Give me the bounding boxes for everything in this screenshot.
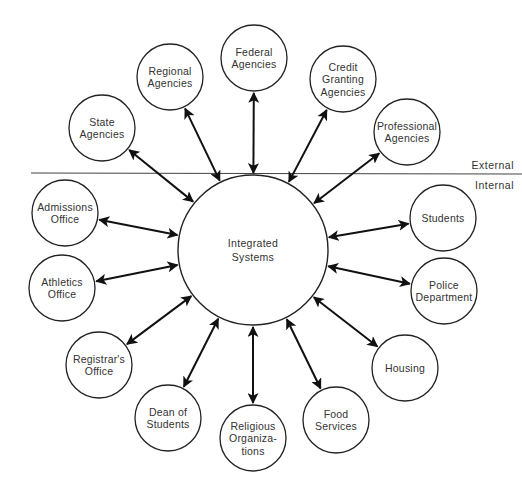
police-department-node: PoliceDepartment: [411, 258, 477, 324]
label-line: Religious: [231, 420, 276, 432]
professional-agencies-label: ProfessionalAgencies: [377, 120, 437, 145]
arrow-registrars-office: [127, 296, 191, 344]
label-line: Services: [315, 420, 357, 432]
religious-organizations-node: ReligiousOrganiza-tions: [220, 405, 286, 471]
students-node: Students: [410, 185, 476, 251]
external-label: External: [471, 159, 514, 171]
integrated-systems-node: IntegratedSystems: [178, 175, 328, 325]
integrated-systems-circle: [178, 175, 328, 325]
label-line: Students: [421, 212, 464, 224]
label-line: Federal: [235, 46, 272, 58]
label-line: tions: [241, 445, 264, 457]
label-line: Agencies: [232, 58, 277, 70]
arrow-credit-granting-agencies: [289, 110, 327, 182]
arrow-housing: [314, 297, 378, 346]
external-internal-divider: [31, 173, 522, 174]
label-line: Athletics: [41, 276, 82, 288]
students-label: Students: [421, 212, 464, 224]
arrow-professional-agencies: [314, 153, 379, 203]
registrars-office-node: Registrar'sOffice: [66, 332, 132, 398]
label-line: Department: [416, 291, 473, 303]
arrow-dean-of-students: [184, 319, 218, 387]
label-line: Regional: [148, 65, 191, 77]
arrow-students: [329, 224, 409, 237]
label-line: Granting: [322, 73, 364, 85]
regional-agencies-label: RegionalAgencies: [148, 65, 193, 90]
food-services-node: FoodServices: [303, 387, 369, 453]
label-line: State: [89, 116, 115, 128]
dean-of-students-node: Dean ofStudents: [135, 385, 201, 451]
label-line: Food: [324, 408, 349, 420]
label-line: Agencies: [385, 132, 430, 144]
label-line: Office: [51, 213, 79, 225]
label-line: Students: [146, 418, 189, 430]
arrow-regional-agencies: [185, 109, 220, 181]
label-line: Organiza-: [229, 432, 277, 444]
housing-label: Housing: [385, 362, 425, 374]
admissions-office-node: AdmissionsOffice: [32, 180, 98, 246]
label-line: Systems: [232, 251, 274, 263]
state-agencies-node: StateAgencies: [69, 95, 135, 161]
integrated-systems-diagram: External Internal IntegratedSystems Stat…: [0, 0, 522, 490]
label-line: Office: [85, 365, 113, 377]
label-line: Admissions: [37, 201, 93, 213]
label-line: Credit: [328, 61, 357, 73]
label-line: Housing: [385, 362, 425, 374]
label-line: Registrar's: [73, 353, 125, 365]
federal-agencies-label: FederalAgencies: [232, 46, 277, 71]
credit-granting-agencies-node: CreditGrantingAgencies: [310, 46, 376, 112]
label-line: Office: [48, 288, 76, 300]
label-line: Integrated: [228, 237, 278, 249]
athletics-office-node: AthleticsOffice: [29, 255, 95, 321]
label-line: Police: [429, 279, 459, 291]
internal-label: Internal: [475, 179, 514, 191]
regional-agencies-node: RegionalAgencies: [137, 44, 203, 110]
label-line: Agencies: [321, 86, 366, 98]
label-line: Agencies: [148, 77, 193, 89]
federal-agencies-node: FederalAgencies: [221, 25, 287, 91]
arrow-state-agencies: [129, 150, 193, 202]
dean-of-students-label: Dean ofStudents: [146, 406, 189, 431]
housing-node: Housing: [372, 335, 438, 401]
arrow-admissions-office: [99, 220, 177, 235]
label-line: Professional: [377, 120, 437, 132]
professional-agencies-node: ProfessionalAgencies: [374, 99, 440, 165]
label-line: Dean of: [149, 406, 187, 418]
label-line: Agencies: [80, 128, 125, 140]
arrow-food-services: [287, 319, 321, 388]
arrow-athletics-office: [96, 265, 177, 281]
arrow-police-department: [328, 266, 410, 284]
